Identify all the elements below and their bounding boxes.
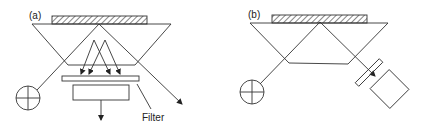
- incident-beam-b: [260, 22, 320, 84]
- filter-leader-line: [137, 84, 151, 109]
- panel-b-label: (b): [248, 9, 260, 20]
- detector-b: [370, 70, 409, 109]
- panel-a-label: (a): [29, 10, 41, 21]
- light-source-icon-b: [240, 80, 264, 104]
- sample-hatched-a: [52, 16, 147, 24]
- emission-arrow-a1: [81, 40, 94, 74]
- reflected-beam-b: [320, 22, 375, 76]
- diagram-canvas: (a) Filter (b): [0, 0, 422, 126]
- detector-a: [73, 85, 129, 100]
- light-source-icon-a: [16, 86, 40, 110]
- incident-beam-a: [37, 24, 99, 90]
- reflected-beam-a: [99, 24, 182, 104]
- filter-plate-b: [355, 59, 383, 87]
- emission-arrow-a3: [89, 40, 105, 74]
- prism-a: [32, 24, 171, 65]
- filter-plate-a: [62, 76, 139, 81]
- panel-b: (b): [240, 9, 409, 108]
- filter-label: Filter: [142, 112, 165, 123]
- prism-b: [250, 23, 388, 64]
- sample-hatched-b: [272, 15, 367, 23]
- panel-a: (a) Filter: [16, 10, 182, 123]
